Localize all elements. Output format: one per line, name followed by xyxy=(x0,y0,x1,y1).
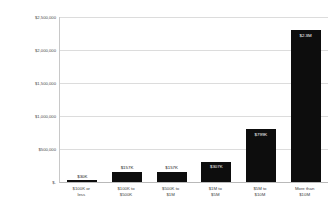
bar-slot: $157K xyxy=(105,17,150,182)
bar-value-label: $157K xyxy=(165,165,178,170)
bar-value-label: $157K xyxy=(121,165,134,170)
bar-chart: Average budget (indicative) in US$ $-$50… xyxy=(0,0,334,214)
bar-slot: $157K xyxy=(149,17,194,182)
x-axis-tick-label-line: $10M xyxy=(238,192,283,198)
y-axis-tick-label: $1,000,000 xyxy=(16,114,56,119)
y-axis-tick-label: $1,500,000 xyxy=(16,81,56,86)
x-axis-tick-label: $1M to$5M xyxy=(193,186,238,208)
bar-slot: $2.3M xyxy=(283,17,328,182)
bar[interactable]: $30K xyxy=(67,180,97,182)
x-axis-tick-label: $500K to$1M xyxy=(148,186,193,208)
y-axis-tick-label: $- xyxy=(16,180,56,185)
bar[interactable]: $307K xyxy=(201,162,231,182)
x-axis-tick-label: $5M to$10M xyxy=(238,186,283,208)
bar-slot: $30K xyxy=(60,17,105,182)
bar-value-label: $307K xyxy=(210,164,223,169)
y-axis-tick-label: $500,000 xyxy=(16,147,56,152)
x-axis-tick-label-line: less xyxy=(59,192,104,198)
bar[interactable]: $157K xyxy=(157,172,187,182)
y-axis-tick-label: $2,000,000 xyxy=(16,48,56,53)
y-axis-tick-labels: $-$500,000$1,000,000$1,500,000$2,000,000… xyxy=(16,0,56,214)
x-axis-tick-label-line: $500K xyxy=(104,192,149,198)
x-axis-tick-label-line: $1M xyxy=(148,192,193,198)
bar[interactable]: $2.3M xyxy=(291,30,321,182)
bar-slot: $799K xyxy=(239,17,284,182)
x-axis-tick-label: $100K orless xyxy=(59,186,104,208)
bar-value-label: $2.3M xyxy=(300,33,312,38)
x-axis-tick-labels: $100K orless$100K to$500K$500K to$1M$1M … xyxy=(59,186,327,208)
x-axis-tick-label: More than$10M xyxy=(282,186,327,208)
bars-group: $30K$157K$157K$307K$799K$2.3M xyxy=(60,17,328,182)
x-axis-tick-label: $100K to$500K xyxy=(104,186,149,208)
x-axis-tick-label-line: $5M xyxy=(193,192,238,198)
y-axis-tick-label: $2,500,000 xyxy=(16,15,56,20)
plot-area: $30K$157K$157K$307K$799K$2.3M xyxy=(59,17,328,183)
x-axis-tick-label-line: $10M xyxy=(282,192,327,198)
bar-slot: $307K xyxy=(194,17,239,182)
bar-value-label: $30K xyxy=(77,174,87,179)
bar-value-label: $799K xyxy=(255,132,268,137)
bar[interactable]: $157K xyxy=(112,172,142,182)
bar[interactable]: $799K xyxy=(246,129,276,182)
